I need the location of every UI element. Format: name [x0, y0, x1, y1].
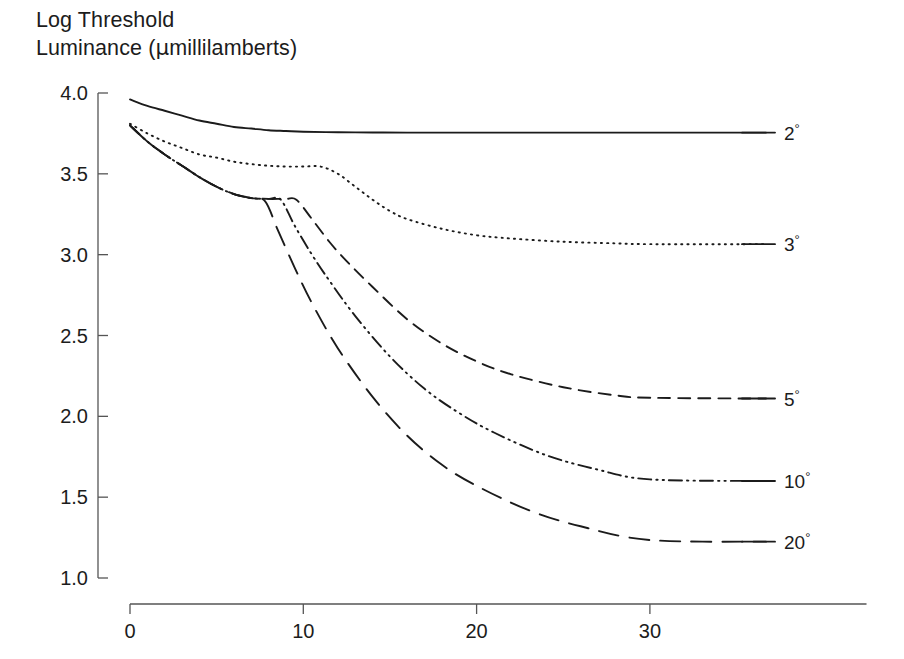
mu-symbol: μ [155, 35, 169, 60]
plot-area: 1.01.52.02.53.03.54.0 0102030 2°3°5°10°2… [0, 0, 904, 659]
x-axis: 0102030 [124, 604, 866, 642]
legend-label-3deg: 3° [784, 232, 800, 255]
y-axis-tick-label: 1.5 [60, 486, 88, 508]
x-axis-tick-label: 20 [465, 620, 487, 642]
x-axis-tick-label: 0 [124, 620, 135, 642]
x-axis-tick-label: 10 [292, 620, 314, 642]
y-axis-tick-label: 3.5 [60, 163, 88, 185]
legend: 2°3°5°10°20° [742, 121, 810, 553]
y-axis-tick-label: 2.5 [60, 325, 88, 347]
series-line-2deg [130, 99, 766, 132]
y-axis-title-line1: Log Threshold [36, 8, 174, 32]
y-axis-title: Log ThresholdLuminance (μmillilamberts) [36, 6, 297, 62]
legend-label-10deg: 10° [784, 469, 810, 492]
series-line-20deg [130, 125, 766, 541]
chart-figure: Log ThresholdLuminance (μmillilamberts) … [0, 0, 904, 659]
series-line-10deg [130, 125, 766, 481]
y-axis-tick-label: 3.0 [60, 244, 88, 266]
y-axis: 1.01.52.02.53.03.54.0 [60, 82, 108, 589]
x-axis-tick-label: 30 [639, 620, 661, 642]
y-axis-tick-label: 1.0 [60, 567, 88, 589]
y-axis-tick-label: 4.0 [60, 82, 88, 104]
y-axis-title-line2: Luminance (μmillilamberts) [36, 36, 297, 60]
legend-label-5deg: 5° [784, 387, 800, 410]
data-series-group [130, 99, 766, 541]
legend-label-2deg: 2° [784, 121, 800, 144]
series-line-5deg [130, 125, 766, 398]
series-line-3deg [130, 124, 766, 244]
y-axis-tick-label: 2.0 [60, 405, 88, 427]
legend-label-20deg: 20° [784, 530, 810, 553]
